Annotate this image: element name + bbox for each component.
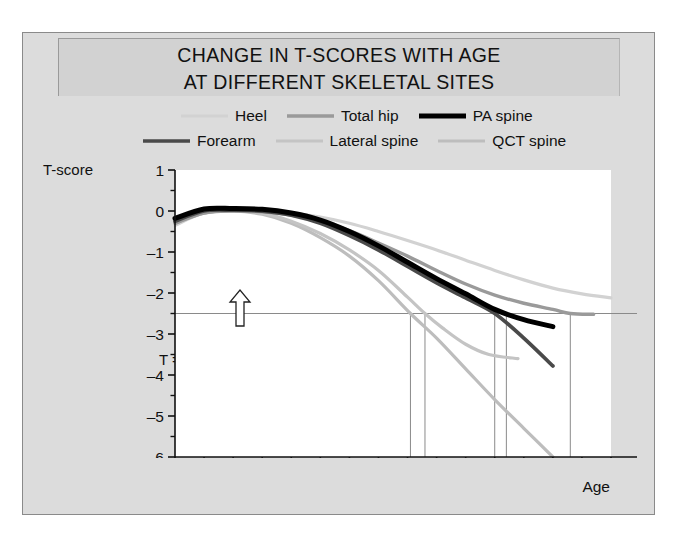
legend-label-qct-spine: QCT spine	[492, 132, 566, 150]
legend-label-forearm: Forearm	[197, 132, 256, 150]
y-axis-title: T-score	[43, 161, 93, 178]
legend-item-forearm: Forearm	[143, 132, 276, 150]
y-tick-label: 0	[155, 203, 164, 220]
legend-label-heel: Heel	[235, 107, 267, 125]
y-tick-label: –5	[147, 408, 164, 425]
legend-swatch-pa-spine	[419, 112, 466, 120]
chart-title-line-2: AT DIFFERENT SKELETAL SITES	[59, 69, 619, 96]
y-tick-label: –1	[147, 244, 164, 261]
legend-swatch-lateral-spine	[276, 137, 323, 145]
chart-title: CHANGE IN T-SCORES WITH AGE AT DIFFERENT…	[58, 38, 620, 96]
legend-swatch-forearm	[143, 137, 190, 145]
legend-label-total-hip: Total hip	[341, 107, 399, 125]
chart-title-line-1: CHANGE IN T-SCORES WITH AGE	[59, 39, 619, 69]
y-tick-label: –2	[147, 285, 164, 302]
legend-swatch-total-hip	[287, 112, 334, 120]
legend-swatch-qct-spine	[438, 137, 485, 145]
y-tick-label: –4	[147, 367, 165, 384]
figure-panel: CHANGE IN T-SCORES WITH AGE AT DIFFERENT…	[22, 32, 655, 515]
plot-area: 10–1–2–3–4–5–620253035404550556065707580…	[131, 148, 641, 458]
legend-item-qct-spine: QCT spine	[438, 132, 586, 150]
legend-row-1: Heel Total hip PA spine	[143, 103, 643, 128]
y-tick-label: –6	[147, 449, 164, 459]
chart-legend: Heel Total hip PA spine Forearm	[143, 103, 643, 153]
legend-swatch-heel	[181, 112, 228, 120]
legend-item-lateral-spine: Lateral spine	[276, 132, 439, 150]
chart-canvas: 10–1–2–3–4–5–620253035404550556065707580…	[131, 148, 641, 458]
legend-label-pa-spine: PA spine	[473, 107, 533, 125]
legend-item-heel: Heel	[181, 107, 287, 125]
y-tick-label: –3	[147, 326, 164, 343]
legend-item-pa-spine: PA spine	[419, 107, 553, 125]
legend-label-lateral-spine: Lateral spine	[330, 132, 419, 150]
y-tick-label: 1	[155, 162, 164, 179]
legend-item-total-hip: Total hip	[287, 107, 419, 125]
x-axis-title: Age	[582, 478, 610, 496]
